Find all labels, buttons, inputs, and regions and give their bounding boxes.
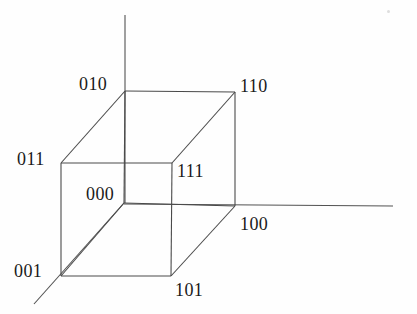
vertex-label-100: 100 <box>240 215 268 233</box>
edge-000-001 <box>61 203 124 276</box>
axes-group <box>34 15 393 304</box>
vertex-label-000: 000 <box>86 185 114 203</box>
cube-diagram-canvas <box>0 0 417 314</box>
edge-110-111 <box>172 92 235 163</box>
vertex-label-110: 110 <box>240 77 268 95</box>
edge-010-110 <box>125 91 235 92</box>
vertex-label-101: 101 <box>175 281 203 299</box>
vertex-label-001: 001 <box>14 262 42 280</box>
scan-speck <box>387 10 390 13</box>
vertex-label-011: 011 <box>17 150 45 168</box>
edge-010-011 <box>61 91 125 163</box>
edge-101-100 <box>171 206 235 276</box>
vertex-label-010: 010 <box>79 75 107 93</box>
binary-cube-figure: 010110011111000100001101 <box>0 0 417 314</box>
vertex-label-111: 111 <box>177 162 204 180</box>
edge-111-101 <box>171 163 172 276</box>
